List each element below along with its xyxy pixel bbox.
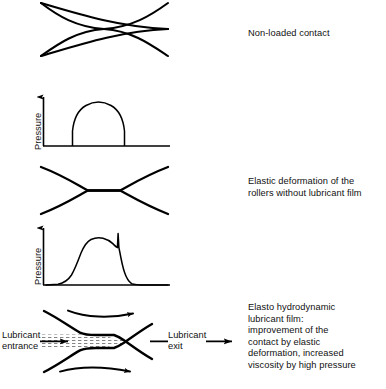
y-axis-label-pressure-hertzian: Pressure (33, 113, 43, 150)
ehl-pressure-curve (46, 234, 168, 286)
hertzian-pressure-curve (73, 102, 125, 146)
panel-ehl-pressure (43, 228, 170, 285)
lower-roller-surface-flattened (41, 191, 168, 215)
panel-hertzian-pressure (43, 97, 170, 146)
upper-roller-surface-flattened (41, 167, 168, 191)
upper-surface-motion-arrow (68, 311, 133, 317)
tribology-figure: Non-loaded contact Elastic deformation o… (0, 0, 386, 389)
lubricant-exit-label: Lubricant exit (168, 330, 206, 352)
panel-non-loaded-contact-left (41, 3, 104, 56)
lubricant-entrance-label: Lubricant entrance (2, 330, 40, 352)
caption-ehl: Elasto hydrodynamic lubricant film: impr… (248, 302, 384, 372)
y-axis-label-pressure-ehl: Pressure (33, 248, 43, 285)
caption-elastic-deformation: Elastic deformation of the rollers witho… (248, 176, 384, 199)
lower-roller-surface-left (41, 29, 104, 56)
caption-non-loaded-contact: Non-loaded contact (248, 28, 384, 40)
panel-non-loaded-contact-mirror (58, 3, 168, 29)
panel-elastic-deformation (41, 167, 168, 214)
spacer-a (58, 3, 168, 29)
lower-surface-motion-arrow (60, 368, 130, 372)
